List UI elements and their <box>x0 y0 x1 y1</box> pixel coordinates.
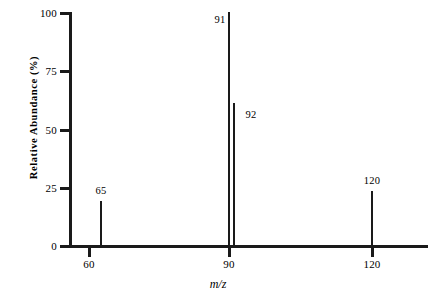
x-tick-label-90: 90 <box>209 259 249 270</box>
mass-spectrum-figure: 100 75 50 25 0 60 90 120 Relative Abunda… <box>0 0 444 301</box>
peak-line-91 <box>228 12 230 245</box>
x-tick-90 <box>228 248 231 257</box>
y-tick-100 <box>60 12 70 15</box>
peak-line-120 <box>371 191 373 245</box>
x-tick-60 <box>88 248 91 257</box>
y-tick-0 <box>60 245 70 248</box>
x-tick-120 <box>371 248 374 257</box>
y-tick-label-0: 0 <box>27 241 57 252</box>
peak-label-91: 91 <box>205 15 235 26</box>
peak-label-120: 120 <box>357 176 387 187</box>
y-tick-75 <box>60 70 70 73</box>
x-tick-label-120: 120 <box>352 259 392 270</box>
y-tick-25 <box>60 187 70 190</box>
y-tick-label-100: 100 <box>27 8 57 19</box>
x-axis-title: m/z <box>178 277 258 292</box>
peak-label-92: 92 <box>236 110 266 121</box>
peak-line-92 <box>233 103 235 245</box>
y-tick-50 <box>60 129 70 132</box>
x-tick-label-60: 60 <box>69 259 109 270</box>
peak-line-65 <box>100 201 102 245</box>
x-axis-line <box>69 245 428 248</box>
y-axis-title: Relative Abundance (%) <box>28 38 39 198</box>
peak-label-65: 65 <box>86 186 116 197</box>
plot-area: 100 75 50 25 0 60 90 120 Relative Abunda… <box>0 0 444 301</box>
